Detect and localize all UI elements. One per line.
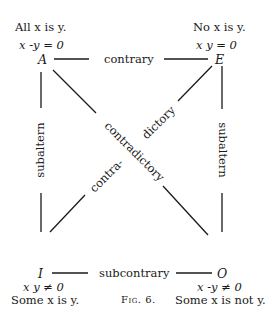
diag-a-o-bottom	[163, 186, 208, 235]
a-statement: All x is y.	[15, 22, 66, 34]
corner-i-label: I	[38, 268, 43, 281]
diag-e-i-top	[178, 66, 212, 101]
corner-a-label: A	[38, 54, 47, 67]
relation-subaltern-right: subaltern	[216, 122, 228, 178]
corner-e-label: E	[215, 54, 224, 67]
i-statement: Some x is y.	[11, 295, 79, 307]
diag-e-i-bottom	[50, 195, 85, 232]
o-equation: x -y ≠ 0	[197, 282, 242, 294]
e-equation: x y = 0	[196, 40, 237, 52]
relation-contrary: contrary	[104, 54, 154, 66]
a-equation: x -y = 0	[19, 40, 64, 52]
i-equation: x y ≠ 0	[23, 282, 64, 294]
diag-a-o-top	[53, 70, 96, 113]
figure-caption: Fig. 6.	[121, 295, 156, 305]
relation-subcontrary: subcontrary	[99, 268, 169, 280]
e-statement: No x is y.	[193, 22, 246, 34]
relation-subaltern-left: subaltern	[35, 122, 47, 178]
o-statement: Some x is not y.	[175, 295, 266, 307]
corner-o-label: O	[217, 268, 227, 281]
